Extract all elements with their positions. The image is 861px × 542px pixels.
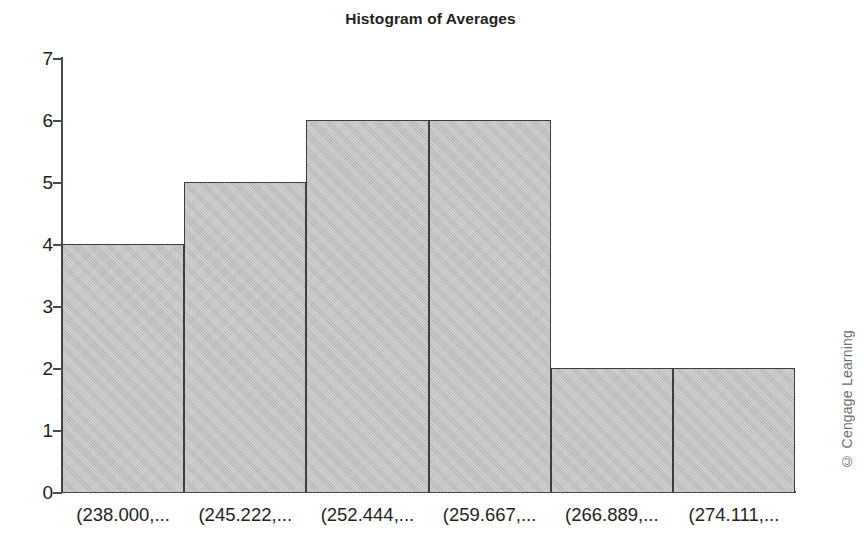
bar-cell: (274.111,... (673, 58, 795, 492)
y-tick-label: 7 (42, 49, 53, 68)
y-tick-label: 6 (42, 111, 53, 130)
histogram-bar (62, 244, 184, 492)
chart-title: Histogram of Averages (0, 10, 861, 28)
y-tick-mark (53, 244, 62, 246)
histogram-bar (673, 368, 795, 492)
y-tick-label: 2 (42, 359, 53, 378)
plot-area: 01234567 (238.000,...(245.222,...(252.44… (62, 58, 795, 492)
bar-cell: (252.444,... (306, 58, 428, 492)
y-tick-mark (53, 120, 62, 122)
copyright-credit: © Cengage Learning (839, 330, 855, 469)
x-tick-label: (245.222,... (198, 506, 292, 525)
x-tick-label: (266.889,... (565, 506, 659, 525)
y-tick-label: 1 (42, 421, 53, 440)
x-tick-label: (274.111,... (689, 506, 780, 525)
x-tick-label: (238.000,... (76, 506, 170, 525)
histogram-figure: Histogram of Averages 01234567 (238.000,… (0, 0, 861, 542)
y-tick-label: 4 (42, 235, 53, 254)
y-tick-mark (53, 182, 62, 184)
bar-cell: (238.000,... (62, 58, 184, 492)
y-tick-label: 0 (42, 483, 53, 502)
y-tick-mark (53, 492, 62, 494)
y-tick-mark (53, 368, 62, 370)
bar-cell: (266.889,... (551, 58, 673, 492)
x-tick-label: (252.444,... (321, 506, 415, 525)
y-tick-label: 5 (42, 173, 53, 192)
y-tick-mark (53, 430, 62, 432)
x-tick-label: (259.667,... (443, 506, 537, 525)
histogram-bar (306, 120, 428, 492)
y-tick-label: 3 (42, 297, 53, 316)
bar-cell: (245.222,... (184, 58, 306, 492)
histogram-bar (184, 182, 306, 492)
bar-cell: (259.667,... (429, 58, 551, 492)
y-tick-mark (53, 306, 62, 308)
y-tick-mark (53, 58, 62, 60)
histogram-bar (429, 120, 551, 492)
bar-series: (238.000,...(245.222,...(252.444,...(259… (62, 58, 795, 492)
histogram-bar (551, 368, 673, 492)
